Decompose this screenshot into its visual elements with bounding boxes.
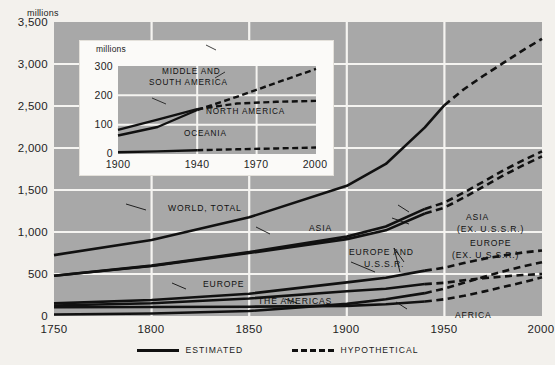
inset-label-oceania: OCEANIA [184, 129, 227, 138]
y-tick-3500: 3,500 [0, 16, 48, 28]
label-europe-ussr-line1: EUROPE AND [349, 247, 414, 257]
legend-item-estimated: ESTIMATED [137, 345, 244, 355]
inset-x-tick-1970: 1970 [234, 158, 278, 170]
x-tick-1750: 1750 [24, 323, 84, 335]
y-tick-1000: 1,000 [0, 226, 48, 238]
x-tick-1850: 1850 [219, 323, 279, 335]
x-tick-2000: 2000 [511, 323, 555, 335]
chart-root: millions 3,500 3,000 2,500 2,000 1,500 1… [0, 0, 555, 365]
label-europe: EUROPE [203, 279, 244, 289]
inset-label-msa-line2: SOUTH AMERICA [149, 78, 228, 87]
y-tick-2500: 2,500 [0, 100, 48, 112]
label-the-americas: THE AMERICAS [258, 296, 332, 306]
y-tick-3000: 3,000 [0, 58, 48, 70]
label-europe-ex-ussr-line1: EUROPE [470, 238, 511, 248]
label-europe-ex-ussr-line2: (EX. U.S.S.R.) [452, 250, 519, 260]
inset-chart: millions 300 200 100 0 1900 1940 1970 20… [80, 41, 333, 175]
label-world-total: WORLD, TOTAL [168, 203, 242, 213]
inset-label-north-america: NORTH AMERICA [206, 107, 285, 116]
legend: ESTIMATED HYPOTHETICAL [0, 340, 555, 358]
inset-y-unit-label: millions [96, 44, 126, 54]
legend-solid-line-icon [137, 349, 179, 352]
label-europe-ussr-line2: U.S.S.R. [364, 259, 404, 269]
inset-y-tick-100: 100 [80, 118, 113, 130]
label-africa: AFRICA [455, 310, 492, 320]
y-tick-500: 500 [0, 268, 48, 280]
x-tick-1800: 1800 [121, 323, 181, 335]
inset-x-tick-1940: 1940 [175, 158, 219, 170]
label-asia-ex-ussr-line2: (EX. U.S.S.R.) [457, 224, 524, 234]
y-tick-2000: 2,000 [0, 142, 48, 154]
label-asia-ex-ussr-line1: ASIA [466, 212, 489, 222]
legend-dashed-line-icon [292, 349, 334, 352]
inset-x-tick-2000: 2000 [293, 158, 337, 170]
x-tick-1950: 1950 [414, 323, 474, 335]
legend-item-hypothetical: HYPOTHETICAL [292, 345, 419, 355]
legend-label-estimated: ESTIMATED [186, 345, 244, 355]
inset-label-msa-line1: MIDDLE AND [162, 67, 221, 76]
x-tick-1900: 1900 [316, 323, 376, 335]
y-tick-0: 0 [0, 310, 48, 322]
label-asia: ASIA [309, 223, 332, 233]
inset-x-tick-1900: 1900 [96, 158, 140, 170]
inset-y-tick-200: 200 [80, 89, 113, 101]
legend-label-hypothetical: HYPOTHETICAL [341, 345, 419, 355]
inset-y-tick-300: 300 [80, 60, 113, 72]
y-tick-1500: 1,500 [0, 184, 48, 196]
